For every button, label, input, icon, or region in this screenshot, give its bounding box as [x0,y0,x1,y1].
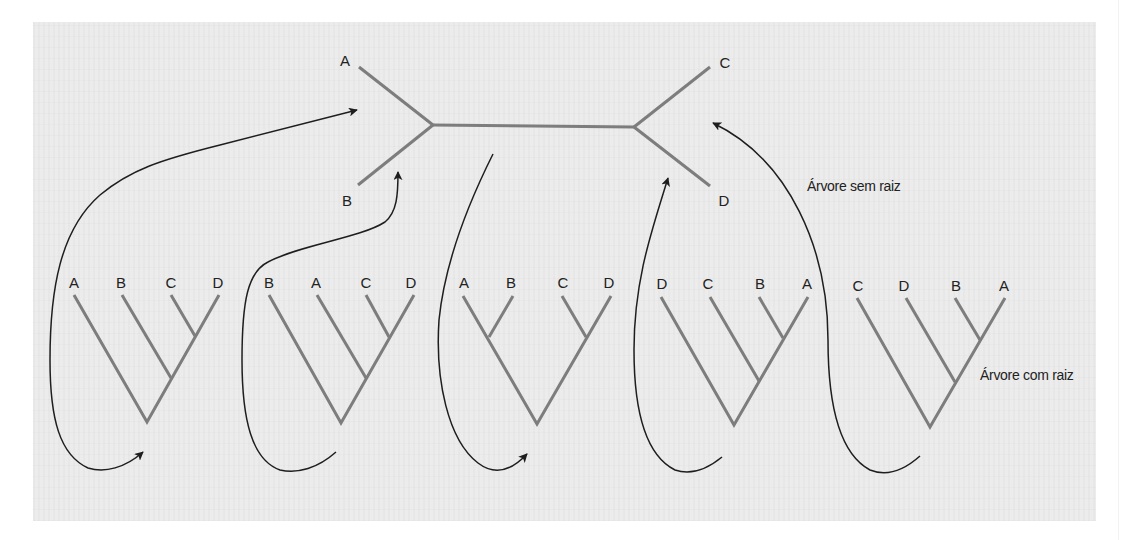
rooted-tree-caption: Árvore com raiz [980,367,1074,383]
unrooted-tree: A B C D Árvore sem raiz [340,52,901,209]
leaf-label: B [951,277,961,294]
arrow-icon [713,123,920,473]
tree-branch [906,298,955,382]
leaf-label: D [604,274,615,291]
leaf-label: D [406,274,417,291]
tree-branch [562,296,586,337]
rooted-tree-5: C D B A Árvore com raiz [853,277,1074,427]
leaf-label: A [459,274,469,291]
leaf-label: B [116,274,126,291]
tree-branch [171,295,195,336]
tree-branch [74,295,219,422]
unrooted-branch-d [634,127,710,186]
phylogenetic-tree-diagram: A B C D Árvore sem raiz A B C D B A C D … [0,0,1123,540]
tree-branch [857,298,1005,427]
leaf-label: A [802,275,812,292]
tree-branch [955,298,980,340]
arrow-icon [242,172,398,471]
unrooted-internal-branch [433,125,634,127]
leaf-label: C [361,274,372,291]
tree-branch [661,297,808,425]
unrooted-leaf-label: A [340,52,350,69]
arrow-icon [438,154,527,470]
unrooted-leaf-label: D [719,192,730,209]
leaf-label: C [853,277,864,294]
unrooted-branch-b [358,125,433,185]
leaf-label: A [999,277,1009,294]
rooted-tree-4: D C B A [657,275,812,425]
tree-branch [122,295,171,378]
leaf-label: C [166,274,177,291]
unrooted-leaf-label: C [720,54,731,71]
tree-branch [759,297,783,338]
unrooted-branch-c [634,67,710,127]
unrooted-leaf-label: B [342,192,352,209]
leaf-label: D [899,277,910,294]
rooted-tree-3: A B C D [459,274,615,424]
tree-branch [366,295,389,337]
leaf-label: D [657,275,668,292]
leaf-label: B [264,274,274,291]
leaf-label: A [69,274,79,291]
unrooted-tree-caption: Árvore sem raiz [807,178,901,194]
tree-branch [269,295,414,423]
rooted-tree-1: A B C D [69,274,224,422]
leaf-label: D [213,274,224,291]
leaf-label: C [703,275,714,292]
unrooted-branch-a [359,67,433,125]
leaf-label: A [311,274,321,291]
rooted-tree-2: B A C D [264,274,417,423]
tree-branch [710,297,759,381]
leaf-label: C [558,274,569,291]
leaf-label: B [755,275,765,292]
root-position-arrows [50,110,920,473]
tree-branch [317,295,366,378]
tree-branch [463,296,611,424]
leaf-label: B [506,274,516,291]
tree-branch [489,296,513,337]
